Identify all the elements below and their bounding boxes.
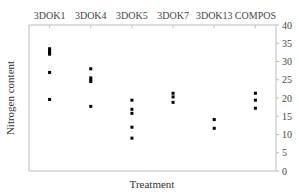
data-point [130, 112, 133, 115]
value-tick-label: 30 [282, 56, 292, 67]
data-point [172, 101, 175, 104]
data-point [213, 127, 216, 130]
value-tick-label: 35 [282, 38, 292, 49]
data-point [172, 95, 175, 98]
data-point [213, 118, 216, 121]
data-points [48, 47, 257, 139]
scatter-chart: 3DOK13DOK43DOK53DOK73DOK13COMPOS 0510152… [0, 0, 299, 196]
value-tick-label: 5 [282, 147, 287, 158]
category-label: 3DOK13 [196, 10, 233, 21]
data-point [48, 98, 51, 101]
data-point [254, 107, 257, 110]
value-tick-label: 25 [282, 74, 292, 85]
data-point [130, 108, 133, 111]
value-tick-label: 0 [282, 166, 287, 177]
category-label: 3DOK4 [75, 10, 107, 21]
category-label: 3DOK1 [34, 10, 66, 21]
value-tick-label: 10 [282, 129, 292, 140]
data-point [254, 92, 257, 95]
y-axis-title: Nitrogen content [4, 61, 16, 135]
data-point [48, 53, 51, 56]
plot-frame [29, 25, 276, 171]
data-point [89, 80, 92, 83]
category-label: 3DOK5 [116, 10, 148, 21]
value-axis-ticks: 0510152025303540 [276, 20, 292, 177]
data-point [254, 99, 257, 102]
data-point [130, 99, 133, 102]
data-point [130, 126, 133, 129]
data-point [130, 137, 133, 140]
data-point [48, 71, 51, 74]
value-tick-label: 15 [282, 111, 292, 122]
value-tick-label: 40 [282, 20, 292, 31]
data-point [89, 105, 92, 108]
value-tick-label: 20 [282, 93, 292, 104]
data-point [172, 92, 175, 95]
category-label: COMPOS [235, 10, 276, 21]
data-point [89, 67, 92, 70]
category-label: 3DOK7 [157, 10, 189, 21]
x-axis-title: Treatment [130, 178, 175, 190]
